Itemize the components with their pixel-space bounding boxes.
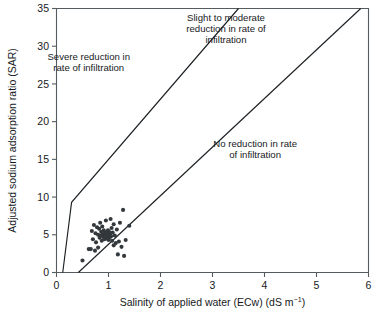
annotation-no-reduction: of infiltration xyxy=(229,149,281,160)
x-tick-label: 6 xyxy=(366,279,372,291)
annotation-slight-moderate-reduction: infiltration xyxy=(205,34,246,45)
y-tick-label: 0 xyxy=(43,266,49,278)
x-axis-label: Salinity of applied water (ECw) (dS m−1) xyxy=(120,295,306,308)
x-tick-label: 0 xyxy=(54,279,60,291)
data-point xyxy=(127,224,131,228)
annotation-severe-reduction: rate of infiltration xyxy=(53,62,124,73)
data-point xyxy=(115,227,119,231)
y-tick-label: 20 xyxy=(37,115,49,127)
x-tick-label: 2 xyxy=(158,279,164,291)
data-point xyxy=(113,233,117,237)
y-tick-label: 15 xyxy=(37,153,49,165)
data-point xyxy=(104,218,108,222)
data-point xyxy=(100,224,104,228)
y-tick-label: 5 xyxy=(43,228,49,240)
chart-canvas: 012345605101520253035Severe reduction in… xyxy=(0,0,387,320)
data-point xyxy=(109,217,113,221)
data-point xyxy=(96,246,100,250)
data-point xyxy=(110,239,114,243)
infiltration-hazard-chart: 012345605101520253035Severe reduction in… xyxy=(0,0,387,320)
data-point xyxy=(110,226,114,230)
data-point xyxy=(118,221,122,225)
data-point xyxy=(91,237,95,241)
annotation-slight-moderate-reduction: reduction in rate of xyxy=(186,23,266,34)
data-point xyxy=(117,240,121,244)
data-point xyxy=(119,245,123,249)
x-tick-label: 5 xyxy=(314,279,320,291)
data-point xyxy=(122,254,126,258)
y-tick-label: 10 xyxy=(37,191,49,203)
data-point xyxy=(109,234,113,238)
data-point xyxy=(94,240,98,244)
data-point xyxy=(112,222,116,226)
y-tick-label: 35 xyxy=(37,2,49,14)
data-point xyxy=(90,229,94,233)
data-point xyxy=(121,208,125,212)
data-point xyxy=(80,258,84,262)
data-point xyxy=(116,252,120,256)
y-axis-label: Adjusted sodium adsorption ratio (SAR) xyxy=(6,48,18,232)
x-tick-label: 3 xyxy=(210,279,216,291)
x-tick-label: 4 xyxy=(262,279,268,291)
data-point xyxy=(98,221,102,225)
data-point xyxy=(93,249,97,253)
data-point xyxy=(89,247,93,251)
annotation-severe-reduction: Severe reduction in xyxy=(47,51,130,62)
x-tick-label: 1 xyxy=(106,279,112,291)
annotation-no-reduction: No reduction in rate xyxy=(213,138,297,149)
annotation-slight-moderate-reduction: Slight to moderate xyxy=(187,12,265,23)
y-tick-label: 25 xyxy=(37,78,49,90)
data-point xyxy=(124,238,128,242)
boundary-severe-slight-boundary xyxy=(63,9,239,273)
